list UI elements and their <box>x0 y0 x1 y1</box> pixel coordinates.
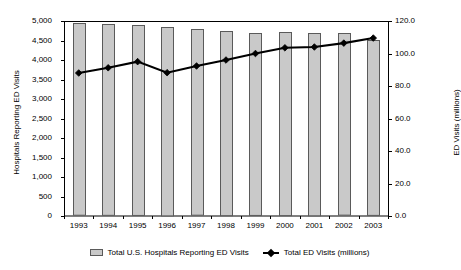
x-tick-label-2000: 2000 <box>270 222 299 230</box>
bar-2000 <box>280 33 292 216</box>
left-tick-label: 3,500 <box>0 76 58 84</box>
legend-item-line: Total ED Visits (millions) <box>263 248 370 257</box>
x-tick-label-1998: 1998 <box>211 222 240 230</box>
bar-1994 <box>103 25 115 216</box>
legend-label-line: Total ED Visits (millions) <box>284 248 370 257</box>
right-tick-label: 80.0 <box>395 82 411 90</box>
left-tick-label: 1,500 <box>0 154 58 162</box>
bar-1996 <box>162 28 174 216</box>
bar-swatch-icon <box>90 249 103 256</box>
left-tick-label: 4,000 <box>0 56 58 64</box>
right-tick-label: 0.0 <box>395 212 406 220</box>
bar-1999 <box>250 34 262 216</box>
bar-2001 <box>309 34 321 216</box>
plot-area <box>0 0 459 245</box>
x-tick-label-1995: 1995 <box>123 222 152 230</box>
left-tick-label: 1,000 <box>0 173 58 181</box>
bar-1995 <box>133 26 145 216</box>
left-tick-label: 4,500 <box>0 37 58 45</box>
left-tick-label: 2,000 <box>0 134 58 142</box>
left-tick-label: 3,000 <box>0 95 58 103</box>
left-tick-label: 0 <box>0 212 58 220</box>
x-tick-label-2003: 2003 <box>359 222 388 230</box>
right-tick-label: 100.0 <box>395 50 415 58</box>
bar-1997 <box>192 30 204 216</box>
x-tick-label-1994: 1994 <box>93 222 122 230</box>
x-tick-label-2002: 2002 <box>329 222 358 230</box>
legend-item-bars: Total U.S. Hospitals Reporting ED Visits <box>90 248 249 257</box>
x-tick-label-1997: 1997 <box>182 222 211 230</box>
line-swatch-icon <box>263 248 279 257</box>
left-tick-label: 500 <box>0 193 58 201</box>
left-tick-label: 5,000 <box>0 17 58 25</box>
x-tick-label-1993: 1993 <box>64 222 93 230</box>
bar-2003 <box>368 41 380 216</box>
bar-2002 <box>339 34 351 216</box>
x-tick-label-1996: 1996 <box>152 222 181 230</box>
right-tick-label: 40.0 <box>395 147 411 155</box>
x-tick-label-1999: 1999 <box>241 222 270 230</box>
right-tick-label: 60.0 <box>395 115 411 123</box>
left-tick-label: 2,500 <box>0 115 58 123</box>
right-tick-label: 120.0 <box>395 17 415 25</box>
right-tick-label: 20.0 <box>395 180 411 188</box>
legend-label-bars: Total U.S. Hospitals Reporting ED Visits <box>108 248 249 257</box>
x-tick-label-2001: 2001 <box>300 222 329 230</box>
bar-1993 <box>74 24 86 216</box>
chart-legend: Total U.S. Hospitals Reporting ED Visits… <box>0 248 459 257</box>
